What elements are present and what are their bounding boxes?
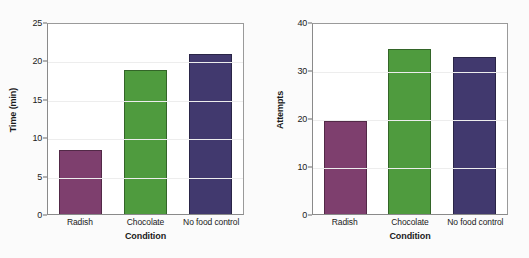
y-axis-tick-labels: 0510152025 [20,0,42,258]
y-axis-tick-label: 0 [302,210,307,220]
bar [59,150,102,215]
x-axis-tick-label: No food control [178,217,244,227]
y-axis-tick-label: 10 [32,133,42,143]
gridline [313,72,507,73]
x-axis-tick-label: No food control [443,217,508,227]
y-axis-tick-label: 25 [32,18,42,28]
gridline [48,101,243,102]
y-axis-tick-label: 40 [297,18,307,28]
y-axis-tick-mark [43,215,47,216]
y-axis-tick-mark [308,215,312,216]
y-axis-tick-mark [308,119,312,120]
x-axis-tick-label: Chocolate [113,217,179,227]
y-axis-tick-mark [43,23,47,24]
y-axis-tick-label: 20 [297,114,307,124]
bar [124,70,167,214]
gridline [313,168,507,169]
gridline [48,139,243,140]
y-axis-tick-mark [43,99,47,100]
x-axis-tick-label: Radish [312,217,377,227]
y-axis-tick-labels: 010203040 [285,0,307,258]
bar [189,54,232,214]
y-axis-tick-mark [43,176,47,177]
x-axis-label: Condition [47,231,244,241]
y-axis-tick-label: 5 [37,172,42,182]
y-axis-tick-label: 15 [32,95,42,105]
x-axis-tick-label: Chocolate [377,217,442,227]
plot-area [312,23,508,215]
y-axis-tick-label: 30 [297,66,307,76]
x-axis-tick-labels: RadishChocolateNo food control [47,217,244,227]
y-axis-tick-label: 10 [297,162,307,172]
y-axis-tick-mark [308,167,312,168]
x-axis-label: Condition [312,231,508,241]
bar [453,57,496,214]
chart-panel-time: Time (min) 0510152025 RadishChocolateNo … [0,0,264,258]
bar-group [313,24,507,214]
gridline [48,62,243,63]
x-axis-tick-label: Radish [47,217,113,227]
y-axis-label: Time (min) [8,75,18,145]
y-axis-tick-mark [308,71,312,72]
y-axis-label: Attempts [275,75,285,145]
y-axis-tick-mark [43,61,47,62]
bar [388,49,431,214]
gridline [313,120,507,121]
x-axis-tick-labels: RadishChocolateNo food control [312,217,508,227]
y-axis-tick-mark [43,138,47,139]
figure: Time (min) 0510152025 RadishChocolateNo … [0,0,529,258]
chart-panel-attempts: Attempts 010203040 RadishChocolateNo foo… [264,0,528,258]
y-axis-tick-label: 0 [37,210,42,220]
bar-group [48,24,243,214]
plot-area [47,23,244,215]
gridline [48,178,243,179]
y-axis-tick-label: 20 [32,56,42,66]
y-axis-tick-mark [308,23,312,24]
